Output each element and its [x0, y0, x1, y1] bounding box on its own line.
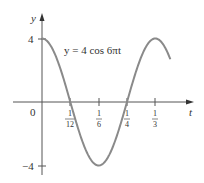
y-axis-arrow-icon — [40, 13, 45, 21]
x-tick-1-6: 1 6 — [96, 98, 102, 129]
x-axis-label: t — [189, 106, 193, 118]
svg-text:1: 1 — [68, 109, 72, 118]
origin-label: 0 — [30, 106, 36, 118]
svg-text:1: 1 — [97, 109, 101, 118]
x-axis-arrow-icon — [186, 100, 194, 105]
svg-text:−4: −4 — [22, 160, 34, 172]
svg-text:4: 4 — [125, 120, 129, 129]
equation-label: y = 4 cos 6πt — [64, 44, 121, 56]
svg-text:12: 12 — [66, 120, 74, 129]
svg-text:1: 1 — [153, 109, 157, 118]
y-axis-label: y — [30, 12, 36, 24]
chart: y t 0 4 −4 1 12 1 6 1 4 1 3 y = 4 cos 6π… — [0, 0, 204, 183]
svg-text:6: 6 — [97, 120, 101, 129]
svg-text:3: 3 — [153, 120, 157, 129]
x-tick-1-3: 1 3 — [152, 98, 158, 129]
svg-text:4: 4 — [28, 33, 34, 45]
